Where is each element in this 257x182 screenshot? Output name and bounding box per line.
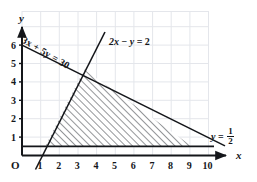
y-tick-3: 3 [11,96,16,106]
x-tick-3: 3 [75,161,80,171]
x-tick-8: 8 [168,161,173,171]
eq2-rhs: = 2 [134,36,150,47]
eq2-term-2x: 2x [109,36,119,47]
x-tick-1: 1 [38,161,43,171]
equation-label-2x-minus-y-equals-2: 2x − y = 2 [109,37,150,47]
y-tick-6: 6 [11,41,16,51]
graph-canvas [0,0,257,182]
x-axis-label: x [236,150,242,161]
origin-label: O [11,160,20,171]
fraction-denominator: 2 [227,136,234,146]
fraction-one-half: 12 [227,127,234,146]
fraction-numerator: 1 [227,127,234,136]
y-tick-1: 1 [11,133,16,143]
graph-figure: 1 2 3 4 5 6 7 8 9 10 1 2 3 4 5 6 O x y 3… [0,0,257,182]
x-tick-4: 4 [94,161,99,171]
y-axis-label: y [19,13,24,24]
x-tick-7: 7 [149,161,154,171]
x-tick-6: 6 [131,161,136,171]
eq3-equals: = [215,131,226,142]
y-tick-2: 2 [11,114,16,124]
eq2-minus: − [119,36,130,47]
equation-label-y-equals-one-half: y = 12 [211,128,234,147]
x-tick-10: 10 [203,161,213,171]
y-tick-5: 5 [11,59,16,69]
x-tick-2: 2 [56,161,61,171]
x-tick-5: 5 [112,161,117,171]
x-tick-9: 9 [187,161,192,171]
y-tick-4: 4 [11,77,16,87]
